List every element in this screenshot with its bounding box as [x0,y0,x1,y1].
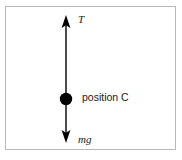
point-mass-dot [60,93,72,105]
position-label: position C [82,92,129,103]
tension-label: T [78,14,84,25]
weight-label: mg [78,134,91,145]
free-body-diagram: T position C mg [0,0,182,160]
